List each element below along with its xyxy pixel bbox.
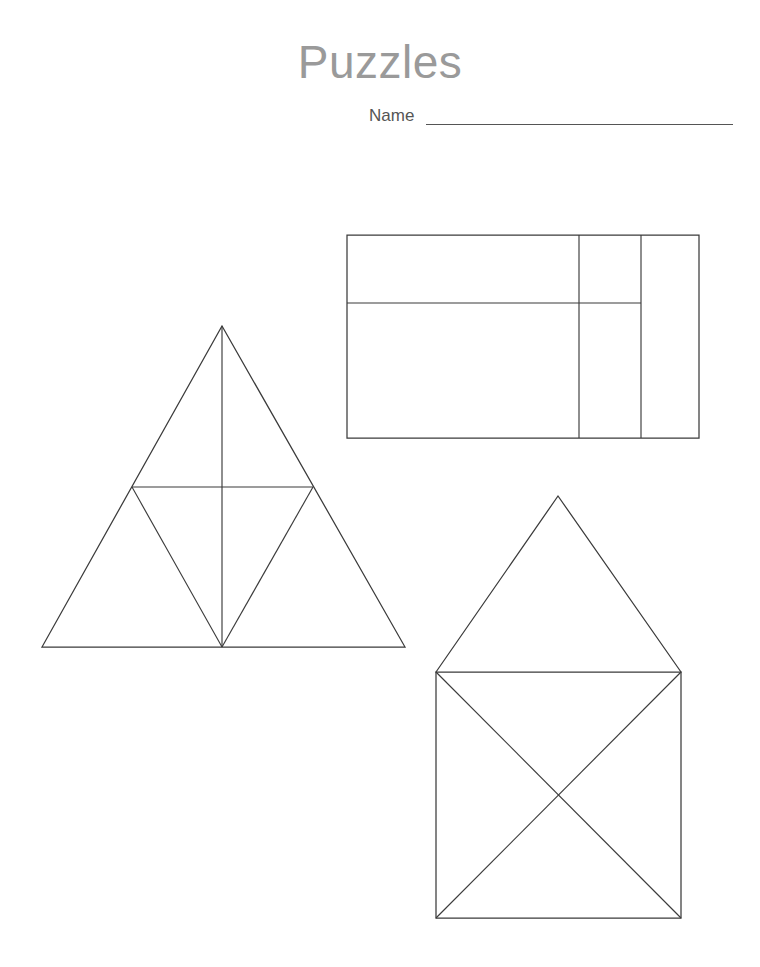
- rectangle-puzzle: [347, 235, 699, 438]
- house-roof-outline: [436, 496, 681, 672]
- triangle-cut-left-midsegment: [132, 487, 222, 647]
- rectangle-outline: [347, 235, 699, 438]
- triangle-puzzle: [42, 326, 405, 647]
- house-puzzle: [436, 496, 681, 918]
- triangle-cut-right-midsegment: [222, 487, 313, 647]
- worksheet-page: Puzzles Name: [0, 0, 760, 967]
- puzzle-figures: [0, 0, 760, 967]
